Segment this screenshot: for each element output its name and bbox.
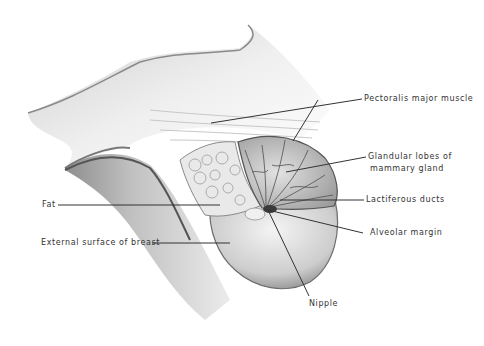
label-nipple: Nipple — [309, 299, 338, 309]
anatomy-diagram: Pectoralis major muscle Glandular lobes … — [0, 0, 484, 346]
label-alveolar-margin: Alveolar margin — [370, 228, 442, 238]
label-fat: Fat — [42, 200, 56, 210]
label-glandular-lobes-line2: mammary gland — [370, 164, 444, 174]
label-external-surface: External surface of breast — [41, 238, 160, 248]
label-pectoralis-major: Pectoralis major muscle — [364, 94, 473, 104]
label-lactiferous-ducts: Lactiferous ducts — [366, 195, 445, 205]
label-glandular-lobes-line1: Glandular lobes of — [368, 152, 452, 162]
